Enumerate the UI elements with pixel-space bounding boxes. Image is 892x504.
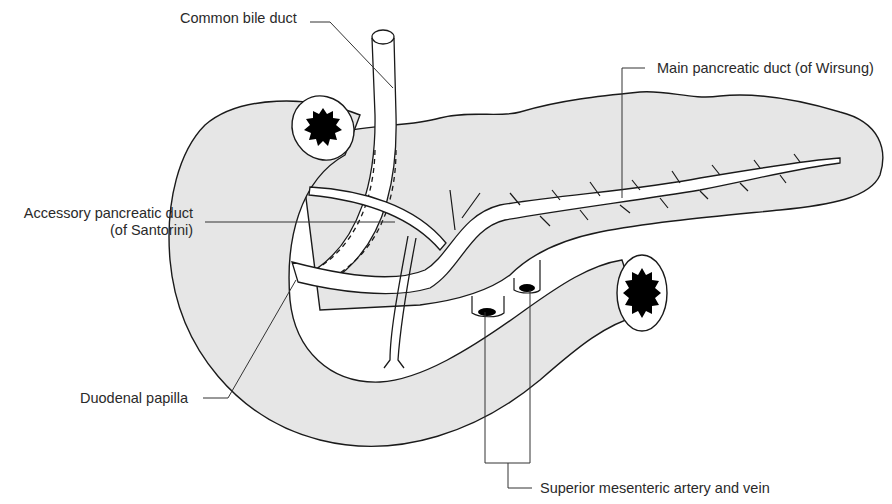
label-accessory-duct: Accessory pancreatic duct (of Santorini) <box>10 205 193 239</box>
label-duodenal-papilla: Duodenal papilla <box>80 390 188 407</box>
label-accessory-duct-line2: (of Santorini) <box>10 222 193 239</box>
label-main-pancreatic-duct: Main pancreatic duct (of Wirsung) <box>657 60 874 77</box>
label-common-bile-duct: Common bile duct <box>180 10 297 27</box>
pancreas-diagram: Common bile duct Main pancreatic duct (o… <box>0 0 892 504</box>
label-accessory-duct-line1: Accessory pancreatic duct <box>10 205 193 222</box>
label-sma-smv: Superior mesenteric artery and vein <box>540 480 770 497</box>
